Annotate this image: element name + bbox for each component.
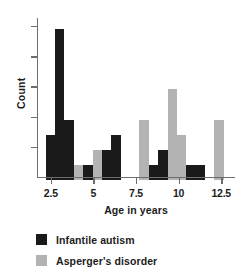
x-tick	[221, 178, 222, 184]
x-tick-label: 7.5	[116, 188, 156, 199]
y-tick	[31, 117, 37, 118]
y-tick	[31, 86, 37, 87]
legend-label: Asperger's disorder	[56, 255, 157, 267]
legend-swatch	[36, 255, 47, 266]
x-tick-label: 12.5	[201, 188, 241, 199]
plot-area	[38, 16, 234, 180]
legend: Infantile autismAsperger's disorder	[36, 229, 236, 271]
bar	[214, 120, 223, 180]
bar	[158, 150, 167, 180]
bar	[168, 89, 177, 180]
x-tick	[179, 178, 180, 184]
legend-item: Infantile autism	[36, 229, 236, 250]
x-tick	[51, 178, 52, 184]
x-tick-label: 10	[159, 188, 199, 199]
x-axis-title: Age in years	[37, 205, 235, 216]
bar	[102, 150, 111, 180]
y-tick	[31, 26, 37, 27]
bar	[177, 135, 186, 180]
x-tick-label: 5	[73, 188, 113, 199]
y-axis-line	[37, 18, 38, 178]
bar	[111, 135, 120, 180]
y-axis-title: Count	[16, 63, 27, 123]
bar	[139, 120, 148, 180]
legend-label: Infantile autism	[56, 234, 135, 246]
legend-item: Asperger's disorder	[36, 250, 236, 271]
legend-swatch	[36, 234, 47, 245]
x-tick	[136, 178, 137, 184]
bar	[64, 120, 73, 180]
bar	[93, 150, 102, 180]
x-tick	[93, 178, 94, 184]
x-tick-label: 2.5	[31, 188, 71, 199]
y-tick	[31, 147, 37, 148]
y-tick	[31, 56, 37, 57]
bar-chart-figure: 246810 2.557.51012.5 Count Age in years …	[0, 0, 245, 277]
bar	[46, 135, 55, 180]
bars-container	[38, 20, 234, 180]
bar	[55, 29, 64, 180]
